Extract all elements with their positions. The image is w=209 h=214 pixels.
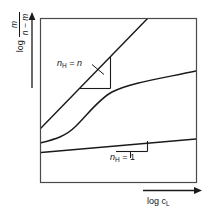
annotation-upper-value: = n — [67, 58, 82, 68]
y-axis-label: log m n − m — [8, 0, 32, 80]
y-axis-label-denominator: n − m — [19, 12, 29, 38]
x-axis-label-main: log c — [147, 196, 166, 206]
x-axis-label: log cL — [147, 196, 170, 207]
annotation-nh-equals-1: nH = 1 — [110, 152, 135, 163]
annotation-lower-value: = 1 — [120, 152, 135, 162]
y-axis-label-numerator: m — [10, 19, 19, 30]
y-axis-label-fraction: m n − m — [10, 12, 29, 38]
x-axis-arrow-icon — [143, 187, 202, 194]
hill-plot-figure: log m n − m log cL nH = n nH = 1 — [0, 0, 209, 214]
y-axis-label-log: log — [15, 40, 25, 52]
x-axis-label-sub: L — [166, 200, 170, 207]
annotation-nh-equals-n: nH = n — [57, 58, 82, 69]
